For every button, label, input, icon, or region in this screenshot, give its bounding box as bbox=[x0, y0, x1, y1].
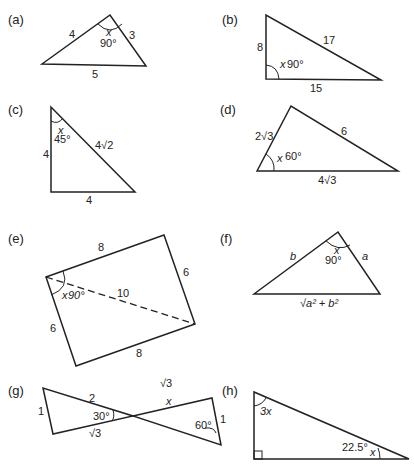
side-e-right: 6 bbox=[183, 266, 189, 278]
side-a-2: 3 bbox=[129, 29, 135, 41]
diagonal-e-label: 10 bbox=[117, 287, 129, 299]
side-b-2: 17 bbox=[323, 34, 335, 46]
side-c-2: 4√2 bbox=[95, 139, 113, 151]
side-b-3: 15 bbox=[310, 82, 322, 94]
triangle-g-left bbox=[43, 388, 133, 434]
side-g-1: 1 bbox=[38, 405, 44, 417]
side-g-x: x bbox=[165, 395, 172, 407]
angle-a: 90° bbox=[100, 37, 117, 49]
side-g-6: 1 bbox=[220, 413, 226, 425]
figure-label-f: (f) bbox=[220, 231, 232, 246]
angle-var-h: x bbox=[369, 446, 376, 458]
angle-f: 90° bbox=[325, 254, 342, 266]
figure-label-b: (b) bbox=[222, 12, 238, 27]
angle-arc-d bbox=[266, 154, 274, 171]
side-g-2: 2 bbox=[89, 392, 95, 404]
figure-label-a: (a) bbox=[8, 12, 24, 27]
angle-var-b: x bbox=[279, 58, 286, 70]
figure-label-e: (e) bbox=[8, 231, 24, 246]
right-angle-marker-h bbox=[254, 451, 262, 459]
angle-b: 90° bbox=[287, 58, 304, 70]
side-b-1: 8 bbox=[257, 41, 263, 53]
angle-h-top: 3x bbox=[260, 405, 272, 417]
side-c-1: 4 bbox=[43, 148, 49, 160]
side-c-3: 4 bbox=[86, 194, 92, 206]
angle-var-d: x bbox=[276, 152, 283, 164]
side-f-hyp: √a² + b² bbox=[300, 297, 338, 309]
side-d-3: 4√3 bbox=[318, 174, 336, 186]
figure-label-d: (d) bbox=[220, 102, 236, 117]
triangle-f bbox=[254, 232, 380, 294]
side-e-top: 8 bbox=[98, 241, 104, 253]
angle-d: 60° bbox=[285, 150, 302, 162]
triangle-c bbox=[51, 107, 135, 192]
angle-var-e: x bbox=[61, 289, 68, 301]
figure-label-h: (h) bbox=[222, 383, 238, 398]
side-f-a: a bbox=[362, 250, 368, 262]
angle-g-30: 30° bbox=[93, 410, 110, 422]
side-d-2: 6 bbox=[341, 125, 347, 137]
angle-arc-c bbox=[51, 118, 63, 122]
angle-arc-h-bottom bbox=[378, 448, 380, 459]
figure-label-g: (g) bbox=[8, 383, 24, 398]
angle-g-60: 60° bbox=[195, 419, 212, 431]
angle-arc-b bbox=[266, 65, 279, 79]
side-d-1: 2√3 bbox=[255, 130, 273, 142]
angle-h-bottom: 22.5° bbox=[342, 441, 368, 453]
geometry-figures: (a) 4 3 5 x 90° (b) 8 17 15 x 90° (c) 4 … bbox=[0, 0, 414, 469]
side-a-3: 5 bbox=[92, 68, 98, 80]
side-g-4: √3 bbox=[160, 377, 172, 389]
angle-c: 45° bbox=[54, 133, 71, 145]
angle-e: 90° bbox=[68, 289, 85, 301]
side-a-1: 4 bbox=[69, 28, 75, 40]
side-g-3: √3 bbox=[89, 427, 101, 439]
angle-arc-g-left bbox=[112, 410, 114, 421]
side-e-bottom: 8 bbox=[136, 347, 142, 359]
side-f-b: b bbox=[290, 250, 296, 262]
triangle-h bbox=[254, 392, 409, 459]
triangle-b bbox=[266, 15, 381, 80]
side-e-left: 6 bbox=[50, 322, 56, 334]
figure-label-c: (c) bbox=[8, 102, 23, 117]
